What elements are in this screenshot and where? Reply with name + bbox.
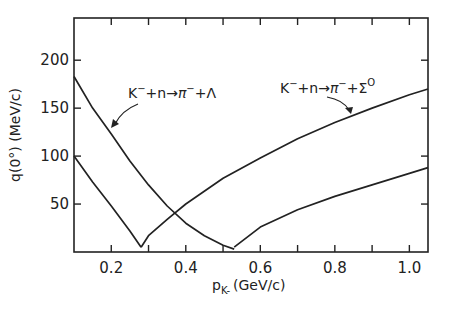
annotation-arrow-lambda (115, 104, 138, 124)
x-tick-label: 0.8 (323, 259, 347, 277)
arrowhead-sigma-icon (345, 107, 353, 114)
y-tick-label: 50 (50, 195, 69, 213)
series-line (234, 168, 428, 248)
y-tick-label: 200 (40, 51, 69, 69)
arrowhead-lambda-icon (111, 119, 119, 128)
x-tick-label: 1.0 (397, 259, 421, 277)
series-line (74, 156, 141, 247)
axis-ticks: 0.20.40.60.81.050100150200 (40, 18, 428, 277)
data-curves (74, 77, 428, 250)
y-tick-label: 150 (40, 99, 69, 117)
annotation-sigma-reaction: K−+n→π−+ΣO (280, 77, 375, 96)
chart: 0.20.40.60.81.050100150200 q(0°) (MeV/c)… (0, 0, 450, 310)
series-line (74, 77, 234, 250)
x-tick-label: 0.4 (174, 259, 198, 277)
annotation-lambda-reaction: K−+n→π−+Λ (128, 83, 216, 101)
x-axis-title: pK-(GeV/c) (212, 277, 285, 296)
plot-frame (74, 18, 428, 252)
y-tick-label: 100 (40, 147, 69, 165)
series-line (141, 89, 428, 247)
y-axis-title: q(0°) (MeV/c) (7, 88, 23, 182)
x-tick-label: 0.2 (99, 259, 123, 277)
x-tick-label: 0.6 (248, 259, 272, 277)
